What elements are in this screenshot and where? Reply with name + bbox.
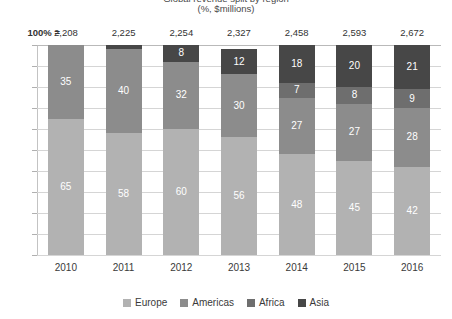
bar-segment-label: 28 <box>407 132 418 142</box>
x-axis-label: 2014 <box>267 262 327 273</box>
bar-segment-label: 42 <box>407 206 418 216</box>
bar-segment[interactable]: 28 <box>394 108 430 167</box>
x-axis-label: 2013 <box>209 262 269 273</box>
y-axis-tick <box>32 66 37 67</box>
legend-swatch-icon <box>123 299 131 307</box>
legend-swatch-icon <box>298 299 306 307</box>
bar-segment-label: 65 <box>60 182 71 192</box>
legend-label: Asia <box>310 297 329 308</box>
bar-segment[interactable]: 45 <box>336 161 372 256</box>
plot-area: 6535584060328563012482771845278204228921 <box>37 45 441 255</box>
legend-swatch-icon <box>180 299 188 307</box>
bar-segment-label: 18 <box>291 59 302 69</box>
totals-row: 100% = 2,2082,2252,2542,3272,4582,5932,6… <box>0 27 452 41</box>
legend-label: Americas <box>192 297 234 308</box>
bar-stack[interactable]: 5840 <box>106 45 142 255</box>
bar-segment[interactable]: 65 <box>48 119 84 256</box>
total-value: 2,672 <box>382 27 442 38</box>
bar-segment[interactable]: 58 <box>106 133 142 255</box>
bar-segment[interactable]: 40 <box>106 49 142 133</box>
y-axis-tick <box>32 234 37 235</box>
bar-stack[interactable]: 6535 <box>48 45 84 255</box>
bar-stack[interactable]: 4827718 <box>279 45 315 255</box>
legend-item[interactable]: Africa <box>247 297 285 308</box>
y-axis-tick <box>32 87 37 88</box>
y-axis-tick <box>32 213 37 214</box>
bar-segment[interactable]: 7 <box>279 83 315 98</box>
bar-segment-label: 32 <box>176 90 187 100</box>
bar-segment-label: 12 <box>233 57 244 67</box>
bar-segment[interactable]: 35 <box>48 45 84 119</box>
x-axis-label: 2015 <box>324 262 384 273</box>
total-value: 2,254 <box>151 27 211 38</box>
y-axis-tick <box>32 129 37 130</box>
bar-segment[interactable]: 32 <box>163 62 199 129</box>
bar-segment-label: 27 <box>291 121 302 131</box>
total-value: 2,208 <box>36 27 96 38</box>
y-axis-tick <box>32 192 37 193</box>
bar-stack[interactable]: 563012 <box>221 45 257 255</box>
x-axis-label: 2011 <box>94 262 154 273</box>
bar-segment[interactable]: 30 <box>221 74 257 137</box>
y-axis-tick <box>32 255 37 256</box>
bar-segment[interactable]: 27 <box>336 104 372 161</box>
bar-segment-label: 8 <box>352 90 358 100</box>
total-value: 2,225 <box>94 27 154 38</box>
chart-subtitle: (%, $millions) <box>0 3 452 14</box>
y-axis-tick <box>32 171 37 172</box>
total-value: 2,327 <box>209 27 269 38</box>
bar-segment[interactable]: 8 <box>336 87 372 104</box>
bar-segment-label: 9 <box>409 94 415 104</box>
bar-segment[interactable]: 8 <box>163 45 199 62</box>
x-axis-label: 2010 <box>36 262 96 273</box>
bar-segment-label: 20 <box>349 61 360 71</box>
legend-item[interactable]: Europe <box>123 297 167 308</box>
gridline <box>37 255 441 256</box>
bar-segment-label: 35 <box>60 77 71 87</box>
bar-segment[interactable]: 20 <box>336 45 372 87</box>
bar-segment[interactable]: 42 <box>394 167 430 255</box>
bar-segment-label: 40 <box>118 86 129 96</box>
bar-segment-label: 30 <box>233 101 244 111</box>
total-value: 2,458 <box>267 27 327 38</box>
bar-segment[interactable]: 18 <box>279 45 315 83</box>
bar-segment-label: 60 <box>176 187 187 197</box>
bar-segment[interactable]: 21 <box>394 45 430 89</box>
y-axis-tick <box>32 150 37 151</box>
bar-segment-label: 45 <box>349 203 360 213</box>
chart-legend: EuropeAmericasAfricaAsia <box>0 297 452 308</box>
bar-stack[interactable]: 4527820 <box>336 45 372 255</box>
bar-segment[interactable]: 60 <box>163 129 199 255</box>
total-value: 2,593 <box>324 27 384 38</box>
bar-segment-label: 48 <box>291 200 302 210</box>
bar-segment-label: 56 <box>233 191 244 201</box>
x-axis-label: 2012 <box>151 262 211 273</box>
bar-segment-label: 21 <box>407 62 418 72</box>
x-axis-label: 2016 <box>382 262 442 273</box>
bar-segment[interactable] <box>106 45 142 49</box>
bar-segment[interactable]: 12 <box>221 49 257 74</box>
legend-label: Europe <box>135 297 167 308</box>
y-axis-tick <box>32 108 37 109</box>
bar-segment[interactable]: 9 <box>394 89 430 108</box>
bar-stack[interactable]: 4228921 <box>394 45 430 255</box>
legend-swatch-icon <box>247 299 255 307</box>
bar-stack[interactable]: 60328 <box>163 45 199 255</box>
bar-segment[interactable]: 27 <box>279 98 315 155</box>
bar-segment[interactable]: 48 <box>279 154 315 255</box>
y-axis-tick <box>32 45 37 46</box>
bar-segment-label: 8 <box>179 48 185 58</box>
legend-label: Africa <box>259 297 285 308</box>
legend-item[interactable]: Asia <box>298 297 329 308</box>
bar-segment-label: 7 <box>294 85 300 95</box>
legend-item[interactable]: Americas <box>180 297 234 308</box>
bar-segment[interactable]: 56 <box>221 137 257 255</box>
bar-segment-label: 58 <box>118 189 129 199</box>
bar-segment-label: 27 <box>349 127 360 137</box>
